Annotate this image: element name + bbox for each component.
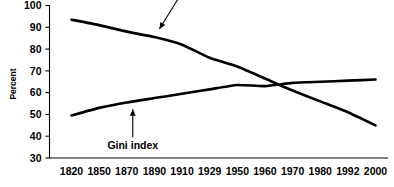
y-tick-label: 70 [30, 65, 42, 77]
y-tick-label: 30 [30, 152, 42, 164]
annotations-container: PovertyGini index [107, 0, 237, 151]
y-tick-label: 100 [24, 0, 42, 11]
x-tick-label: 1820 [60, 165, 84, 177]
series-container [72, 20, 376, 126]
x-tick-label: 1970 [281, 165, 305, 177]
annotation-arrowhead-gini-index [130, 109, 136, 116]
x-tick-label: 1929 [198, 165, 222, 177]
x-tick-label: 1980 [309, 165, 333, 177]
y-tick-label: 90 [30, 21, 42, 33]
y-tick-label: 50 [30, 108, 42, 120]
y-axis-label-group: Percent [8, 68, 18, 99]
x-tick-label: 1992 [336, 165, 360, 177]
y-tick-label: 40 [30, 130, 42, 142]
x-tick-label: 1890 [143, 165, 167, 177]
y-axis-label: Percent [8, 68, 18, 99]
x-tick-label: 1870 [115, 165, 139, 177]
series-line-gini-index [72, 80, 376, 116]
x-axis: 1820185018701890191019291950196019701980… [50, 158, 389, 177]
x-tick-label: 1950 [226, 165, 250, 177]
y-axis: 10090807060504030 [24, 0, 50, 164]
y-tick-label: 60 [30, 86, 42, 98]
chart-canvas: Percent 10090807060504030 18201850187018… [0, 0, 394, 187]
x-tick-label: 1850 [87, 165, 111, 177]
annotation-arrowhead-poverty [159, 22, 165, 29]
chart-figure: Percent 10090807060504030 18201850187018… [0, 0, 394, 187]
x-tick-label: 1910 [170, 165, 194, 177]
x-tick-label: 2000 [364, 165, 388, 177]
series-line-poverty [72, 20, 376, 126]
y-tick-label: 80 [30, 43, 42, 55]
annotation-label-gini-index: Gini index [107, 139, 158, 151]
x-tick-label: 1960 [253, 165, 277, 177]
